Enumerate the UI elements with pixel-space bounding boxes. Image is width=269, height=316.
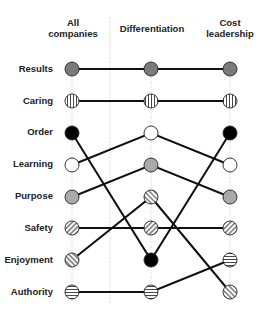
node-enjoyment-all bbox=[65, 253, 79, 267]
node-learning-all bbox=[65, 158, 79, 172]
node-safety-diff bbox=[144, 221, 158, 235]
slope-chart bbox=[0, 0, 269, 316]
node-caring-cost bbox=[223, 94, 237, 108]
node-enjoyment-cost bbox=[223, 285, 237, 299]
node-order-diff bbox=[144, 253, 158, 267]
node-authority-diff bbox=[144, 285, 158, 299]
node-purpose-diff bbox=[144, 158, 158, 172]
node-purpose-cost bbox=[223, 190, 237, 204]
node-order-cost bbox=[223, 126, 237, 140]
node-order-all bbox=[65, 126, 79, 140]
node-caring-all bbox=[65, 94, 79, 108]
node-safety-all bbox=[65, 221, 79, 235]
node-results-all bbox=[65, 62, 79, 76]
node-caring-diff bbox=[144, 94, 158, 108]
node-learning-cost bbox=[223, 158, 237, 172]
node-learning-diff bbox=[144, 126, 158, 140]
node-authority-cost bbox=[223, 253, 237, 267]
node-results-cost bbox=[223, 62, 237, 76]
node-purpose-all bbox=[65, 190, 79, 204]
node-authority-all bbox=[65, 285, 79, 299]
node-results-diff bbox=[144, 62, 158, 76]
node-safety-cost bbox=[223, 221, 237, 235]
node-enjoyment-diff bbox=[144, 190, 158, 204]
